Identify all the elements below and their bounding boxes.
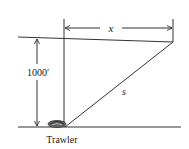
hypotenuse-line [65,42,173,127]
s-label: s [122,86,126,97]
trawler-icon [48,121,66,128]
trawler-diagram: x 1000′ s Trawler [0,0,189,149]
trawler-label: Trawler [46,134,78,145]
x-label: x [108,22,114,34]
height-label: 1000′ [27,67,49,78]
top-line [18,37,173,42]
